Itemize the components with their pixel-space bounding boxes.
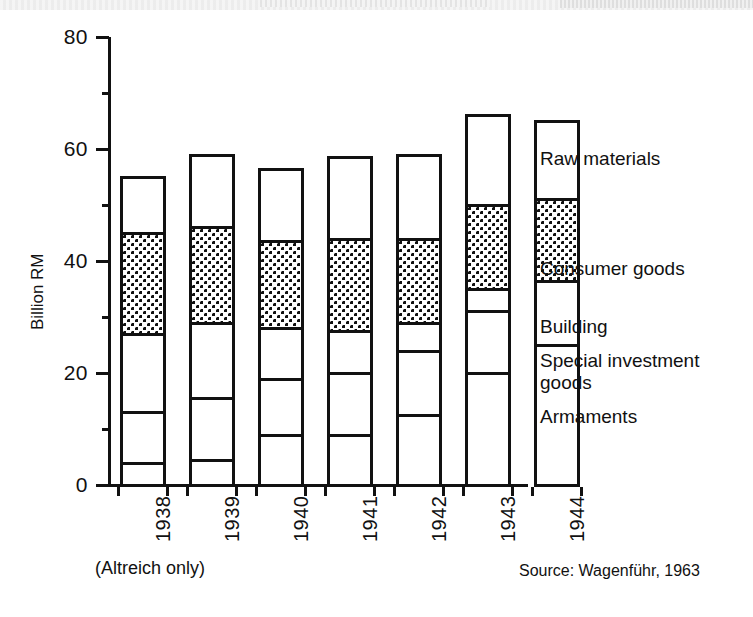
legend-item-raw-materials: Raw materials	[540, 148, 660, 170]
note-source: Source: Wagenführ, 1963	[519, 562, 700, 580]
bar-segment-1941-consumer-goods[interactable]	[327, 238, 373, 333]
bar-segment-1943-consumer-goods[interactable]	[465, 204, 511, 291]
bar-segment-1940-raw-materials[interactable]	[258, 168, 304, 244]
note-altreich: (Altreich only)	[95, 558, 205, 579]
y-tick-20	[96, 372, 109, 375]
bar-1938[interactable]	[120, 0, 166, 487]
x-tick-1938-0	[117, 487, 120, 496]
legend-item-building: Building	[540, 316, 608, 338]
bar-1939[interactable]	[189, 0, 235, 487]
bar-segment-1940-armaments[interactable]	[258, 434, 304, 487]
bar-segment-1938-building[interactable]	[120, 333, 166, 414]
y-minor-tick-10	[102, 428, 109, 431]
x-axis-year-1941: 1941	[359, 496, 382, 543]
bar-segment-1942-raw-materials[interactable]	[396, 154, 442, 241]
bar-segment-1939-consumer-goods[interactable]	[189, 226, 235, 324]
x-axis-year-1938: 1938	[152, 496, 175, 543]
bar-segment-1939-special-investment-goods[interactable]	[189, 397, 235, 462]
bar-segment-1943-building[interactable]	[465, 288, 511, 313]
y-tick-label-40: 40	[46, 249, 88, 273]
x-axis-year-1940: 1940	[290, 496, 313, 543]
y-axis-label: Billion RM	[28, 253, 48, 330]
bar-segment-1943-special-investment-goods[interactable]	[465, 310, 511, 375]
y-tick-60	[96, 148, 109, 151]
legend-item-goods: goods	[540, 372, 592, 394]
y-minor-tick-30	[102, 316, 109, 319]
bar-segment-1940-special-investment-goods[interactable]	[258, 378, 304, 437]
x-axis-year-1942: 1942	[428, 496, 451, 543]
y-minor-tick-50	[102, 204, 109, 207]
y-tick-0	[96, 484, 109, 487]
bar-segment-1939-building[interactable]	[189, 322, 235, 401]
x-tick-1939-0	[186, 487, 189, 496]
y-tick-label-60: 60	[46, 137, 88, 161]
y-minor-tick-70	[102, 92, 109, 95]
bar-1940[interactable]	[258, 0, 304, 487]
y-tick-label-20: 20	[46, 361, 88, 385]
x-tick-1943-0	[462, 487, 465, 496]
bar-segment-1942-building[interactable]	[396, 322, 442, 353]
x-tick-1940-0	[255, 487, 258, 496]
bar-segment-1938-armaments[interactable]	[120, 462, 166, 487]
bar-segment-1943-armaments[interactable]	[465, 372, 511, 487]
bar-segment-1941-armaments[interactable]	[327, 434, 373, 487]
bar-segment-1942-special-investment-goods[interactable]	[396, 350, 442, 417]
bar-segment-1943-raw-materials[interactable]	[465, 114, 511, 207]
bar-segment-1938-special-investment-goods[interactable]	[120, 411, 166, 464]
bar-segment-1942-armaments[interactable]	[396, 414, 442, 487]
x-axis-year-1939: 1939	[221, 496, 244, 543]
bar-segment-1940-consumer-goods[interactable]	[258, 240, 304, 330]
legend-item-consumer-goods: Consumer goods	[540, 258, 685, 280]
bar-1942[interactable]	[396, 0, 442, 487]
y-tick-label-0: 0	[46, 473, 88, 497]
x-tick-1942-0	[393, 487, 396, 496]
bar-segment-1939-armaments[interactable]	[189, 459, 235, 487]
bar-segment-1941-building[interactable]	[327, 330, 373, 375]
x-axis-year-1943: 1943	[497, 496, 520, 543]
y-tick-80	[96, 36, 109, 39]
x-tick-1941-0	[324, 487, 327, 496]
bar-segment-1938-raw-materials[interactable]	[120, 176, 166, 235]
chart-page: 020406080 Billion RM 1938193919401941194…	[0, 0, 753, 617]
bar-segment-1939-raw-materials[interactable]	[189, 154, 235, 230]
bar-1943[interactable]	[465, 0, 511, 487]
legend-item-armaments: Armaments	[540, 406, 637, 428]
bar-segment-1941-raw-materials[interactable]	[327, 156, 373, 240]
y-tick-label-80: 80	[46, 25, 88, 49]
bar-segment-1941-special-investment-goods[interactable]	[327, 372, 373, 437]
y-tick-40	[96, 260, 109, 263]
bar-1941[interactable]	[327, 0, 373, 487]
x-axis-year-1944: 1944	[566, 496, 589, 543]
bar-segment-1938-consumer-goods[interactable]	[120, 232, 166, 336]
bar-segment-1940-building[interactable]	[258, 327, 304, 380]
x-tick-1944-0	[531, 487, 534, 496]
legend-item-special-investment: Special investment	[540, 350, 699, 372]
plot-area: 020406080 Billion RM 1938193919401941194…	[0, 0, 753, 617]
bar-segment-1942-consumer-goods[interactable]	[396, 238, 442, 325]
